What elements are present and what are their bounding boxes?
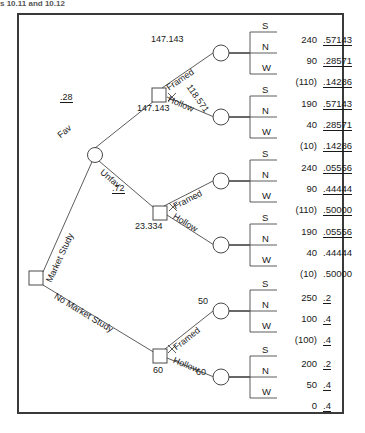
market-study-chance-node xyxy=(88,148,103,163)
outcome-label: W xyxy=(262,127,271,137)
unfav-decision-node xyxy=(153,206,167,220)
fork-unfav-hollow-s xyxy=(229,224,277,245)
payoff-value: 40 xyxy=(283,248,317,258)
fork-nostudy-hollow-s xyxy=(229,356,277,377)
chance-node-nostudy-hollow xyxy=(213,369,229,385)
probability-value: .28571 xyxy=(323,120,352,131)
probability-value: .44444 xyxy=(323,184,352,195)
outcome-label: N xyxy=(262,300,269,310)
probability-fav: .28 xyxy=(60,93,73,103)
chance-node-unfav-framed xyxy=(213,173,229,189)
outcome-label: N xyxy=(262,234,269,244)
outcome-label: N xyxy=(262,170,269,180)
probability-value: .4 xyxy=(323,314,331,325)
value-fav-decision: 147.143 xyxy=(137,104,170,113)
value-unfav-decision: 23.334 xyxy=(135,222,163,231)
fork-nostudy-framed-s xyxy=(229,290,277,311)
payoff-value: 190 xyxy=(283,227,317,237)
outcome-label: W xyxy=(262,191,271,201)
outcome-label: S xyxy=(262,345,268,355)
fav-decision-node xyxy=(152,88,166,102)
outcome-label: S xyxy=(262,213,268,223)
edge-market-study xyxy=(43,155,95,272)
fork-fav-hollow-s xyxy=(229,96,277,117)
fork-fav-framed-s xyxy=(229,32,277,53)
payoff-value: (110) xyxy=(283,205,317,215)
payoff-value: 100 xyxy=(283,314,317,324)
payoff-value: (110) xyxy=(283,77,317,87)
outcome-label: S xyxy=(262,21,268,31)
payoff-value: 250 xyxy=(283,293,317,303)
chance-node-fav-hollow xyxy=(213,109,229,125)
payoff-value: (10) xyxy=(283,141,317,151)
nostudy-decision-node xyxy=(153,349,167,363)
probability-value: .57143 xyxy=(323,99,352,110)
probability-value: .4 xyxy=(323,335,331,346)
probability-value: .57143 xyxy=(323,35,352,46)
value-fav-framed-chance: 147.143 xyxy=(151,35,184,44)
probability-value: .4 xyxy=(323,380,331,391)
outcome-label: W xyxy=(262,255,271,265)
probability-value: .05556 xyxy=(323,227,352,238)
root-decision-node xyxy=(29,271,43,285)
outcome-label: N xyxy=(262,42,269,52)
probability-value: .44444 xyxy=(323,248,352,258)
payoff-value: 50 xyxy=(283,380,317,390)
probability-value: .05556 xyxy=(323,163,352,174)
probability-value: .4 xyxy=(323,401,331,412)
outcome-label: W xyxy=(262,321,271,331)
payoff-value: 240 xyxy=(283,35,317,45)
chance-node-unfav-hollow xyxy=(213,237,229,253)
chance-node-nostudy-framed xyxy=(213,303,229,319)
probability-value: .2 xyxy=(323,359,331,370)
payoff-value: 200 xyxy=(283,359,317,369)
probability-value: .50000 xyxy=(323,205,352,216)
probability-value: .14286 xyxy=(323,141,352,152)
value-nostudy-decision: 60 xyxy=(153,366,163,375)
edge-unfav xyxy=(99,161,160,213)
payoff-value: (10) xyxy=(283,269,317,279)
fork-unfav-framed-s xyxy=(229,160,277,181)
value-nostudy-hollow-chance: 60 xyxy=(196,368,206,377)
payoff-value: (100) xyxy=(283,335,317,345)
payoff-value: 40 xyxy=(283,120,317,130)
probability-value: .28571 xyxy=(323,56,352,67)
payoff-value: 190 xyxy=(283,99,317,109)
probability-value: .50000 xyxy=(323,269,352,279)
value-nostudy-framed-chance: 50 xyxy=(198,297,208,306)
chance-node-fav-framed xyxy=(213,45,229,61)
probability-unfav: .72 xyxy=(112,184,125,194)
probability-value: .14286 xyxy=(323,77,352,88)
payoff-value: 90 xyxy=(283,56,317,66)
outcome-label: W xyxy=(262,387,271,397)
outcome-label: N xyxy=(262,106,269,116)
outcome-label: W xyxy=(262,63,271,73)
payoff-value: 0 xyxy=(283,401,317,411)
outcome-label: N xyxy=(262,366,269,376)
payoff-value: 90 xyxy=(283,184,317,194)
outcome-label: S xyxy=(262,279,268,289)
outcome-label: S xyxy=(262,149,268,159)
outcome-label: S xyxy=(262,85,268,95)
probability-value: .2 xyxy=(323,293,331,304)
payoff-value: 240 xyxy=(283,163,317,173)
